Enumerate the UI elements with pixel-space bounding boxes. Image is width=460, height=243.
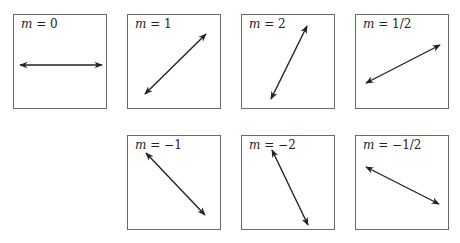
slope-label: m = −1: [135, 138, 182, 152]
slope-panel-m0: m = 0: [13, 14, 107, 109]
slope-panel-m1: m = 1: [127, 14, 221, 109]
slope-panel-mneg1_2: m = −1/2: [355, 135, 449, 230]
slope-panel-m2: m = 2: [241, 14, 335, 109]
slope-label: m = −1/2: [363, 138, 421, 152]
slope-panel-mneg1: m = −1: [127, 135, 221, 230]
slope-label: m = 1/2: [363, 17, 411, 31]
slope-label: m = 1: [135, 17, 172, 31]
slope-label: m = −2: [249, 138, 296, 152]
slope-panel-mneg2: m = −2: [241, 135, 335, 230]
slope-panel-m1_2: m = 1/2: [355, 14, 449, 109]
slope-label: m = 2: [249, 17, 286, 31]
slope-label: m = 0: [21, 17, 58, 31]
